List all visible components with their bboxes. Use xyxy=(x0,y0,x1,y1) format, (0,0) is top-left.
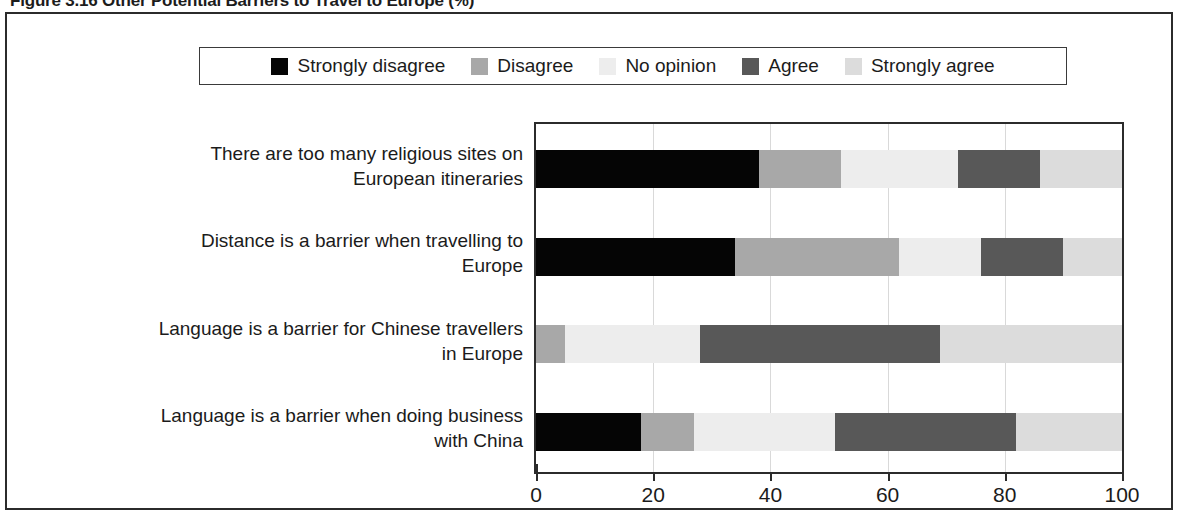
legend-item-label: Disagree xyxy=(497,55,573,77)
x-axis-line xyxy=(534,472,1124,474)
bar-row xyxy=(536,299,1122,387)
category-label-line: with China xyxy=(434,428,523,453)
x-axis-tick-label: 60 xyxy=(876,483,899,507)
category-label-line: There are too many religious sites on xyxy=(210,141,523,166)
bar-segment xyxy=(1040,150,1122,188)
category-label-line: Language is a barrier when doing busines… xyxy=(161,403,523,428)
legend-item: Strongly disagree xyxy=(271,55,445,77)
bar-segment xyxy=(536,150,759,188)
bar-segment xyxy=(536,238,735,276)
legend-item: Strongly agree xyxy=(845,55,995,77)
bar-segment xyxy=(841,150,958,188)
category-label: Distance is a barrier when travelling to… xyxy=(105,210,523,298)
legend-item: Disagree xyxy=(471,55,573,77)
x-axis-tick-label: 20 xyxy=(642,483,665,507)
plot-area xyxy=(534,122,1124,472)
x-axis-tick-label: 80 xyxy=(993,483,1016,507)
x-axis-tick xyxy=(1005,472,1007,481)
legend-item-label: Strongly agree xyxy=(871,55,995,77)
category-label: There are too many religious sites onEur… xyxy=(105,122,523,210)
stacked-bar xyxy=(536,238,1122,276)
x-axis-tick xyxy=(653,472,655,481)
category-label-line: Language is a barrier for Chinese travel… xyxy=(159,316,523,341)
category-label-line: in Europe xyxy=(442,341,523,366)
category-label-line: Distance is a barrier when travelling to xyxy=(201,228,523,253)
legend-item-label: No opinion xyxy=(625,55,716,77)
x-axis-tick-label: 0 xyxy=(530,483,542,507)
bar-segment xyxy=(981,238,1063,276)
category-label: Language is a barrier for Chinese travel… xyxy=(105,297,523,385)
legend-item: No opinion xyxy=(599,55,716,77)
bar-row xyxy=(536,212,1122,300)
legend-swatch-disagree-icon xyxy=(471,58,488,75)
bar-segment xyxy=(958,150,1040,188)
x-axis-tick-label: 40 xyxy=(759,483,782,507)
bar-segment xyxy=(835,413,1017,451)
bar-segment xyxy=(735,238,899,276)
bar-segment xyxy=(1063,238,1122,276)
x-axis-tick xyxy=(1122,472,1124,481)
category-label: Language is a barrier when doing busines… xyxy=(105,385,523,473)
x-axis-tick-label: 100 xyxy=(1104,483,1139,507)
stacked-bar xyxy=(536,413,1122,451)
figure-title: Figure 3.16 Other Potential Barriers to … xyxy=(10,0,474,11)
legend-item: Agree xyxy=(742,55,819,77)
chart-legend: Strongly disagreeDisagreeNo opinionAgree… xyxy=(199,47,1067,85)
stacked-bar xyxy=(536,150,1122,188)
category-axis-labels: There are too many religious sites onEur… xyxy=(105,122,523,472)
x-axis-tick xyxy=(770,472,772,481)
bar-row xyxy=(536,387,1122,475)
bar-segment xyxy=(565,325,700,363)
stacked-bar xyxy=(536,325,1122,363)
category-label-line: European itineraries xyxy=(353,166,523,191)
legend-swatch-no-opinion-icon xyxy=(599,58,616,75)
x-axis-tick-upper xyxy=(1122,464,1124,472)
legend-swatch-agree-icon xyxy=(742,58,759,75)
x-axis-tick xyxy=(536,472,538,481)
legend-item-label: Strongly disagree xyxy=(297,55,445,77)
bar-row xyxy=(536,124,1122,212)
figure-frame: Strongly disagreeDisagreeNo opinionAgree… xyxy=(5,12,1173,510)
bar-segment xyxy=(940,325,1122,363)
x-axis-tick-upper xyxy=(536,464,538,472)
bar-segment xyxy=(536,413,641,451)
legend-swatch-strongly-agree-icon xyxy=(845,58,862,75)
bar-segment xyxy=(899,238,981,276)
bar-segment xyxy=(1016,413,1121,451)
x-axis-tick xyxy=(888,472,890,481)
bar-segment xyxy=(759,150,841,188)
legend-swatch-strongly-disagree-icon xyxy=(271,58,288,75)
legend-item-label: Agree xyxy=(768,55,819,77)
x-axis-tick-labels: 020406080100 xyxy=(534,483,1124,513)
category-label-line: Europe xyxy=(462,253,523,278)
bar-segment xyxy=(700,325,940,363)
bar-segment xyxy=(536,325,565,363)
bar-segment xyxy=(694,413,835,451)
bar-segment xyxy=(641,413,694,451)
